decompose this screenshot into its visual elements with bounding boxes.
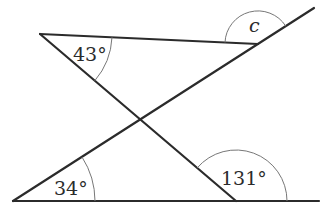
angle-label-43: 43° [73, 43, 107, 65]
diagram-canvas: 43° c 34° 131° [0, 0, 327, 206]
long-diagonal-line [13, 8, 314, 201]
angle-diagram: 43° c 34° 131° [0, 0, 327, 206]
angle-label-c: c [249, 14, 260, 36]
angle-label-34: 34° [54, 177, 88, 199]
angle-label-131: 131° [221, 167, 267, 189]
crossing-line [40, 34, 236, 201]
